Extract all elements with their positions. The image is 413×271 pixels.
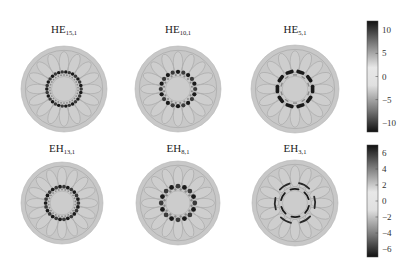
field-lobe-faint (184, 190, 186, 192)
core-ring-inner (50, 191, 74, 215)
field-lobe-faint (190, 199, 192, 201)
field-lobe-faint (169, 190, 171, 192)
field-lobe-faint (167, 98, 169, 100)
field-lobe (60, 70, 63, 73)
field-lobe (160, 92, 164, 96)
field-lobe (169, 185, 174, 190)
field-lobe-faint (179, 102, 181, 104)
field-lobe (182, 216, 187, 221)
field-lobe-faint (74, 204, 76, 206)
field-lobe (181, 71, 185, 75)
field-lobe (57, 104, 60, 107)
field-lobe (47, 80, 50, 83)
field-lobe (76, 97, 79, 100)
field-lobe (62, 185, 66, 189)
field-lobe (166, 101, 170, 105)
field-lobe-faint (188, 194, 190, 196)
field-lobe (54, 216, 58, 220)
field-lobe (51, 100, 54, 103)
field-lobe (164, 213, 169, 218)
field-lobe (64, 70, 67, 73)
mode-field (136, 161, 220, 245)
field-lobe-faint (293, 102, 297, 103)
field-lobe (171, 71, 175, 75)
panel-title: HE5,1 (284, 23, 307, 36)
field-lobe (66, 216, 70, 220)
field-lobe-faint (75, 81, 77, 83)
field-lobe (54, 102, 57, 105)
field-lobe-faint (187, 98, 189, 100)
field-lobe (68, 104, 71, 107)
field-lobe-faint (69, 101, 71, 103)
field-lobe-faint (74, 197, 76, 199)
field-lobe (188, 213, 193, 218)
colorbar-tick-label: −5 (382, 95, 392, 105)
field-lobe (191, 207, 196, 212)
field-lobe-faint (55, 214, 57, 216)
field-lobe (176, 217, 181, 222)
field-lobe (78, 80, 81, 83)
field-lobe-faint (64, 215, 66, 217)
field-lobe-faint (74, 200, 76, 202)
field-lobe-faint (70, 192, 72, 194)
colorbar-he: 1050−5−10 (367, 21, 397, 132)
field-lobe (46, 194, 50, 198)
field-lobe (48, 77, 51, 80)
colorbar-tick-label: 0 (382, 72, 387, 82)
field-arc (290, 189, 298, 190)
field-lobe (76, 205, 80, 209)
field-lobe-faint (163, 199, 165, 201)
field-lobe (75, 209, 79, 213)
field-lobe (54, 72, 57, 75)
core-ring-inner (283, 191, 308, 216)
colorbar-tick-label: 0 (382, 196, 387, 206)
colorbar-tick-label: −4 (382, 228, 392, 238)
field-lobe-faint (171, 101, 173, 103)
mode-field (252, 160, 338, 246)
field-lobe (160, 207, 165, 212)
field-lobe-faint (174, 188, 176, 190)
field-lobe-faint (69, 75, 71, 77)
field-lobe (186, 101, 190, 105)
field-lobe (64, 104, 67, 107)
field-lobe (176, 104, 180, 108)
field-lobe (48, 212, 52, 216)
field-lobe-faint (163, 90, 165, 92)
field-lobe-faint (50, 194, 52, 196)
field-lobe-faint (74, 79, 76, 81)
field-lobe (44, 205, 48, 209)
colorbar-tick-label: −6 (382, 244, 392, 254)
field-lobe (171, 103, 175, 107)
field-lobe (44, 197, 48, 201)
field-lobe (58, 185, 62, 189)
field-lobe (190, 77, 194, 81)
field-lobe (160, 194, 165, 199)
field-lobe-faint (63, 74, 65, 76)
field-lobe-faint (188, 209, 190, 211)
field-lobe (159, 87, 163, 91)
field-lobe (162, 77, 166, 81)
field-lobe-faint (49, 87, 51, 89)
field-lobe-faint (74, 207, 76, 209)
field-lobe-faint (183, 75, 185, 77)
colorbar-eh: 6420−2−4−6 (367, 145, 392, 257)
field-lobe-faint (58, 215, 60, 217)
field-lobe-faint (175, 102, 177, 104)
field-lobe-faint (67, 190, 69, 192)
panel-title: EH13,1 (49, 142, 75, 155)
field-lobe (164, 189, 169, 194)
panel-he-5-1: HE5,1 (251, 23, 339, 133)
field-lobe-faint (174, 215, 176, 217)
field-lobe-faint (70, 212, 72, 214)
colorbar-tick-label: −2 (382, 212, 392, 222)
field-lobe (160, 82, 164, 86)
panel-eh-8-1: EH8,1 (136, 142, 220, 245)
field-lobe (276, 85, 280, 93)
capillary-petal (290, 166, 299, 188)
field-lobe (75, 194, 79, 198)
field-lobe (186, 73, 190, 77)
field-lobe-faint (190, 82, 192, 84)
panel-he-15-1: HE15,1 (21, 23, 107, 132)
core-ring-inner (52, 77, 77, 102)
field-lobe (48, 190, 52, 194)
